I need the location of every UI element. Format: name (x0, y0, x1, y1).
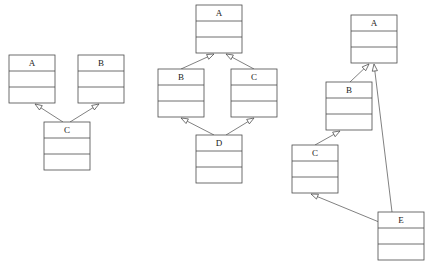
generalization-c-to-b[interactable] (315, 131, 340, 145)
class-name-label: B (346, 85, 352, 95)
generalization-arrowhead (226, 54, 233, 60)
generalization-c-to-a[interactable] (35, 104, 63, 122)
class-name-label: A (371, 18, 378, 28)
generalization-line (181, 57, 208, 69)
generalization-b-to-a[interactable] (181, 54, 214, 69)
generalization-line (70, 108, 93, 122)
class-name-label: D (216, 138, 223, 148)
class-box-a[interactable]: A (351, 15, 397, 63)
class-box-c[interactable]: C (231, 69, 277, 117)
generalization-arrowhead (181, 118, 188, 124)
generalization-line (232, 57, 254, 69)
class-name-label: B (98, 58, 104, 68)
generalization-arrowhead (207, 54, 214, 59)
class-box-a[interactable]: A (9, 55, 55, 103)
generalization-line (315, 134, 334, 145)
class-name-label: B (178, 72, 184, 82)
class-box-b[interactable]: B (78, 55, 124, 103)
generalization-line (350, 69, 364, 82)
class-box-c[interactable]: C (292, 145, 338, 193)
generalization-c-to-a[interactable] (226, 54, 254, 69)
class-name-label: C (312, 148, 318, 158)
generalization-d-to-c[interactable] (226, 118, 254, 135)
diagram-canvas-root: ABCABCDABCE (0, 0, 430, 266)
generalization-b-to-a[interactable] (350, 64, 369, 82)
generalization-line (317, 197, 379, 222)
class-box-e[interactable]: E (378, 212, 424, 260)
classes-layer: ABCABCDABCE (9, 5, 424, 260)
class-box-b[interactable]: B (326, 82, 372, 130)
class-box-c[interactable]: C (44, 122, 90, 170)
class-box-d[interactable]: D (196, 135, 242, 183)
generalization-d-to-b[interactable] (181, 118, 214, 135)
class-name-label: C (64, 125, 70, 135)
generalization-e-to-c[interactable] (311, 194, 379, 222)
class-name-label: E (398, 215, 404, 225)
generalization-arrowhead (311, 194, 318, 199)
generalization-line (375, 71, 392, 212)
generalization-line (226, 122, 248, 135)
class-box-a[interactable]: A (196, 5, 242, 53)
generalization-arrowhead (35, 104, 42, 110)
class-box-b[interactable]: B (158, 69, 204, 117)
generalization-c-to-b[interactable] (70, 104, 99, 122)
generalization-line (187, 121, 214, 135)
generalization-line (41, 108, 63, 122)
uml-diagram-surface: ABCABCDABCE (0, 0, 430, 266)
generalization-arrowhead (372, 64, 377, 71)
generalization-e-to-a[interactable] (372, 64, 392, 212)
class-name-label: C (251, 72, 257, 82)
generalization-arrowhead (247, 118, 254, 124)
class-name-label: A (29, 58, 36, 68)
class-name-label: A (216, 8, 223, 18)
generalization-arrowhead (333, 131, 340, 137)
generalization-arrowhead (92, 104, 99, 110)
